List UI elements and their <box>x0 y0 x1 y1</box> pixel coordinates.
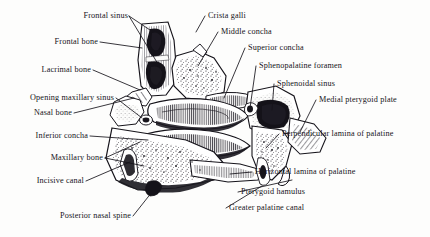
label-greater-palatine-canal: Greater palatine canal <box>229 203 304 212</box>
leader-frontal-sinus-a <box>129 16 150 30</box>
label-inferior-concha: Inferior concha <box>8 131 88 140</box>
posterior-nasal-spine <box>145 181 162 196</box>
frontal-bone-region <box>138 22 176 96</box>
label-superior-concha: Superior concha <box>248 43 304 52</box>
label-incisive-canal: Incisive canal <box>8 176 84 185</box>
nasal-cavity-illustration <box>0 0 430 237</box>
leader-lacrimal-bone <box>93 70 140 90</box>
lacrimal-bone-region <box>110 96 144 126</box>
label-opening-maxillary-sinus: Opening maxillary sinus <box>4 93 114 102</box>
leader-frontal-bone <box>100 42 142 48</box>
figure-canvas: Frontal sinus Frontal bone Lacrimal bone… <box>0 0 430 237</box>
label-sphenoidal-sinus: Sphenoidal sinus <box>277 79 335 88</box>
maxillary-sinus-opening <box>140 115 153 125</box>
leader-superior-concha <box>224 48 245 98</box>
label-middle-concha: Middle concha <box>221 27 272 36</box>
label-nasal-bone: Nasal bone <box>8 108 72 117</box>
leader-crista-galli <box>196 16 205 32</box>
label-posterior-nasal-spine: Posterior nasal spine <box>8 211 131 220</box>
label-medial-pterygoid-plate: Medial pterygoid plate <box>319 95 397 104</box>
label-frontal-bone: Frontal bone <box>8 37 98 46</box>
label-perpendicular-lamina-of-palatine: Perpendicular lamina of palatine <box>282 129 393 138</box>
label-frontal-sinus: Frontal sinus <box>8 11 128 20</box>
label-horizontal-lamina-of-palatine: Horizontal lamina of palatine <box>255 167 356 176</box>
label-pterygoid-hamulus: Pterygoid hamulus <box>241 187 305 196</box>
label-crista-galli: Crista galli <box>208 11 246 20</box>
label-lacrimal-bone: Lacrimal bone <box>8 65 91 74</box>
ethmoid-region <box>172 44 226 100</box>
leader-posterior-nasal-spine <box>133 192 152 216</box>
label-sphenopalatine-foramen: Sphenopalatine foramen <box>259 61 342 70</box>
label-maxillary-bone: Maxillary bone <box>8 153 103 162</box>
